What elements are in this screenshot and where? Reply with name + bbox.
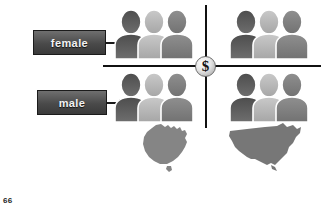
three-people-icon-bottom-right [228,72,310,122]
row-label-male[interactable]: male [37,90,107,115]
australia-map-icon [141,122,197,172]
dollar-coin-icon: $ [195,56,216,77]
three-people-icon-top-left [113,9,195,59]
page-number: 66 [3,196,13,205]
row-label-male-text: male [59,97,86,109]
three-people-icon-bottom-left [113,72,195,122]
three-people-icon-top-right [228,9,310,59]
slide-canvas: $ female male [0,0,324,214]
row-label-female[interactable]: female [33,30,106,55]
row-label-female-text: female [51,37,88,49]
dollar-symbol: $ [202,59,210,74]
usa-map-icon [227,121,303,171]
